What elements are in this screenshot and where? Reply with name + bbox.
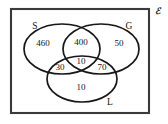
venn-diagram-canvas: S G L ℰ 460 400 50 30 10 70 10 xyxy=(0,0,168,124)
set-label-s: S xyxy=(32,21,37,31)
region-count-g-and-l-only: 70 xyxy=(98,62,108,72)
region-count-l-only: 10 xyxy=(77,82,87,92)
set-label-g: G xyxy=(126,21,133,31)
region-count-s-and-l-only: 30 xyxy=(56,62,66,72)
region-count-s-and-g-and-l: 10 xyxy=(77,56,87,66)
venn-diagram: S G L ℰ 460 400 50 30 10 70 10 xyxy=(0,0,168,124)
region-count-g-only: 50 xyxy=(115,38,125,48)
universal-set-label: ℰ xyxy=(155,6,162,16)
set-label-l: L xyxy=(107,97,113,107)
region-count-s-and-g-only: 400 xyxy=(74,37,88,47)
region-count-s-only: 460 xyxy=(36,38,50,48)
